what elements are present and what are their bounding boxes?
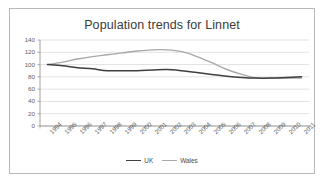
- data-series-group: [47, 50, 301, 79]
- y-tick-label: 60: [13, 86, 35, 92]
- series-line-uk: [47, 65, 301, 79]
- plot-area: 020406080100120140 199419951996199719981…: [10, 9, 316, 175]
- y-tick-label: 120: [13, 49, 35, 55]
- y-tick-label: 40: [13, 98, 35, 104]
- y-tick-label: 80: [13, 74, 35, 80]
- y-tick-label: 100: [13, 61, 35, 67]
- legend-line-icon: [126, 160, 141, 161]
- y-axis-labels: 020406080100120140: [13, 9, 35, 175]
- y-tick-label: 140: [13, 37, 35, 43]
- series-line-wales: [47, 50, 301, 79]
- legend-label: UK: [144, 158, 153, 164]
- legend-item-uk[interactable]: UK: [126, 158, 153, 164]
- y-tick-label: 0: [13, 123, 35, 129]
- chart-svg: [10, 9, 316, 175]
- chart-container: Population trends for Linnet 02040608010…: [9, 8, 315, 174]
- legend-line-icon: [162, 160, 177, 161]
- axis-lines: [38, 40, 310, 126]
- y-tick-label: 20: [13, 111, 35, 117]
- chart-legend: UKWales: [10, 158, 314, 164]
- legend-label: Wales: [180, 158, 198, 164]
- gridlines: [40, 40, 309, 126]
- legend-item-wales[interactable]: Wales: [162, 158, 198, 164]
